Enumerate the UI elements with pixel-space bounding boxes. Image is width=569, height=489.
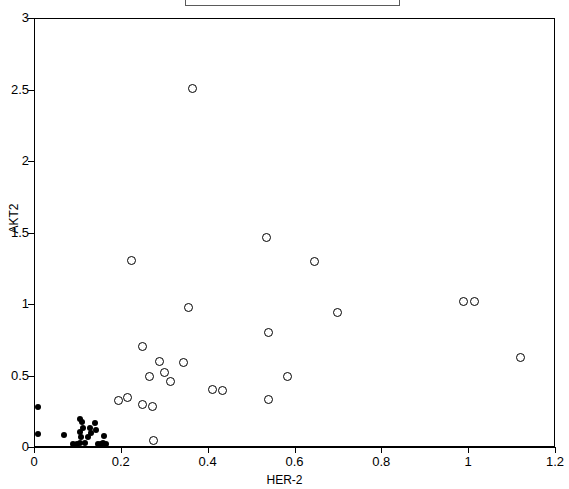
data-point-filled [82,440,88,446]
data-point-open [127,256,136,265]
x-tick-label: 0.6 [275,455,315,469]
legend-box [185,0,400,6]
x-tick-label: 0 [14,455,54,469]
x-tick-label: 0.2 [101,455,141,469]
x-tick-mark [121,447,122,453]
data-point-open [184,303,193,312]
x-tick-label: 1 [448,455,488,469]
y-tick-label: 1 [0,297,29,311]
data-point-open [264,328,273,337]
x-tick-mark [295,447,296,453]
y-axis-title: AKT2 [8,179,21,259]
x-tick-mark [208,447,209,453]
x-tick-mark [34,447,35,453]
data-point-filled [103,441,109,447]
data-point-open [264,395,273,404]
data-point-open [208,385,217,394]
x-tick-label: 0.8 [361,455,401,469]
y-tick-label: 3 [0,11,29,25]
data-point-open [262,233,271,242]
x-axis-title: HER-2 [0,474,569,487]
y-tick-label: 2.5 [0,83,29,97]
y-tick-label: 2 [0,154,29,168]
data-point-open [459,297,468,306]
data-point-filled [92,420,98,426]
data-point-open [149,436,158,445]
x-tick-label: 0.4 [188,455,228,469]
x-tick-mark [555,447,556,453]
y-tick-label: 0.5 [0,369,29,383]
x-tick-mark [381,447,382,453]
data-point-open [470,297,479,306]
data-point-open [160,368,169,377]
data-point-filled [93,427,99,433]
data-point-open [145,372,154,381]
data-point-filled [79,419,85,425]
scatter-plot-figure: 00.20.40.60.811.2 00.511.522.53 HER-2 AK… [0,0,569,489]
y-tick-label: 0 [0,440,29,454]
plot-area-frame [34,18,555,447]
x-tick-label: 1.2 [535,455,569,469]
data-point-open [123,393,132,402]
data-point-open [516,353,525,362]
data-point-open [310,257,319,266]
x-tick-mark [468,447,469,453]
